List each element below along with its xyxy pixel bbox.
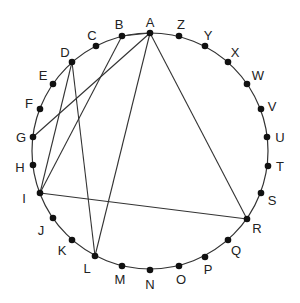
point-E bbox=[50, 81, 57, 88]
circle-outline bbox=[32, 33, 268, 269]
label-Q: Q bbox=[231, 243, 241, 258]
point-R bbox=[244, 216, 251, 223]
point-Y bbox=[202, 43, 209, 50]
point-K bbox=[69, 237, 76, 244]
point-labels: ABCDEFGHIJKLMNOPQRSTUVWXYZ bbox=[15, 15, 284, 292]
point-X bbox=[225, 59, 232, 66]
point-J bbox=[50, 215, 57, 222]
point-A bbox=[147, 30, 154, 37]
point-H bbox=[30, 162, 37, 169]
label-N: N bbox=[145, 277, 154, 292]
label-L: L bbox=[83, 261, 90, 276]
point-O bbox=[176, 263, 183, 270]
point-P bbox=[202, 254, 209, 261]
label-B: B bbox=[115, 17, 124, 32]
chord-B-I bbox=[40, 36, 122, 193]
label-V: V bbox=[268, 99, 277, 114]
circle-points bbox=[30, 30, 272, 274]
label-S: S bbox=[268, 193, 277, 208]
point-D bbox=[69, 59, 76, 66]
label-T: T bbox=[276, 159, 284, 174]
label-X: X bbox=[231, 45, 240, 60]
point-U bbox=[264, 134, 271, 141]
point-T bbox=[265, 163, 272, 170]
label-Y: Y bbox=[204, 28, 213, 43]
label-M: M bbox=[115, 272, 126, 287]
label-R: R bbox=[252, 221, 261, 236]
chord-D-L bbox=[72, 62, 95, 256]
label-W: W bbox=[252, 68, 265, 83]
point-I bbox=[37, 190, 44, 197]
chord-A-R bbox=[150, 33, 247, 219]
label-P: P bbox=[204, 262, 213, 277]
point-B bbox=[119, 33, 126, 40]
point-W bbox=[244, 81, 251, 88]
point-G bbox=[30, 134, 37, 141]
point-F bbox=[37, 106, 44, 113]
point-L bbox=[92, 253, 99, 260]
label-C: C bbox=[87, 28, 96, 43]
label-U: U bbox=[275, 130, 284, 145]
label-Z: Z bbox=[177, 17, 185, 32]
chord-A-L bbox=[95, 33, 150, 256]
point-N bbox=[147, 267, 154, 274]
label-A: A bbox=[146, 15, 155, 30]
point-Z bbox=[176, 33, 183, 40]
label-E: E bbox=[39, 68, 48, 83]
point-C bbox=[93, 43, 100, 50]
chord-I-R bbox=[40, 193, 247, 219]
point-S bbox=[258, 190, 265, 197]
point-V bbox=[258, 106, 265, 113]
label-K: K bbox=[58, 243, 67, 258]
chord-lines bbox=[33, 33, 247, 256]
label-O: O bbox=[176, 272, 186, 287]
label-F: F bbox=[25, 96, 33, 111]
label-D: D bbox=[60, 45, 69, 60]
point-M bbox=[119, 263, 126, 270]
circle-diagram: ABCDEFGHIJKLMNOPQRSTUVWXYZ bbox=[0, 0, 300, 303]
label-G: G bbox=[16, 130, 26, 145]
label-J: J bbox=[38, 223, 45, 238]
label-I: I bbox=[22, 191, 26, 206]
label-H: H bbox=[15, 160, 24, 175]
